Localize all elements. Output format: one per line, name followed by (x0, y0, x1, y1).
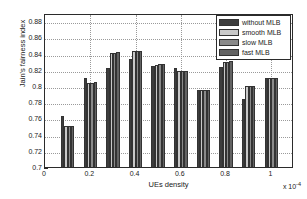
legend-swatch (219, 39, 239, 46)
x-axis-multiplier: x 10-4 (283, 181, 301, 190)
x-axis-multiplier-base: x 10 (283, 183, 296, 190)
y-tick-label: 0.86 (28, 34, 42, 42)
x-tick-label: 0.2 (77, 169, 101, 178)
legend-swatch (219, 49, 239, 56)
legend-swatch (219, 19, 239, 26)
x-tick-label: 1 (258, 169, 282, 178)
figure-canvas: Jain's fairness index 0.70.720.740.760.7… (0, 0, 307, 199)
x-tick-mark (225, 163, 226, 168)
legend-label: slow MLB (242, 39, 272, 47)
y-tick-label: 0.8 (32, 83, 42, 91)
bar (275, 78, 278, 168)
y-tick-label: 0.78 (28, 99, 42, 107)
y-tick-label: 0.82 (28, 67, 42, 75)
legend-label: smooth MLB (242, 29, 281, 37)
x-tick-label: 0.8 (213, 169, 237, 178)
x-tick-mark (89, 163, 90, 168)
legend-label: without MLB (242, 19, 281, 27)
y-tick-label: 0.88 (28, 18, 42, 26)
y-axis-label: Jain's fairness index (18, 0, 27, 119)
legend-label: fast MLB (242, 49, 270, 57)
x-tick-label: 0 (32, 169, 56, 178)
bar (139, 51, 142, 168)
x-tick-mark (135, 163, 136, 168)
bar (71, 126, 74, 168)
bar (94, 82, 97, 168)
y-tick-label: 0.74 (28, 132, 42, 140)
bar (184, 71, 187, 168)
legend-swatch (219, 29, 239, 36)
x-tick-mark (44, 163, 45, 168)
bar (252, 86, 255, 168)
x-axis-multiplier-exponent: -4 (296, 181, 301, 187)
y-tick-label: 0.76 (28, 115, 42, 123)
bar (207, 90, 210, 168)
legend-item-slow-mlb[interactable]: slow MLB (219, 38, 288, 47)
bar (116, 52, 119, 168)
x-axis-label: UEs density (44, 180, 293, 189)
x-tick-label: 0.6 (168, 169, 192, 178)
y-tick-label: 0.72 (28, 148, 42, 156)
bar (162, 64, 165, 168)
x-tick-label: 0.4 (123, 169, 147, 178)
bar (229, 61, 232, 168)
legend-item-smooth-mlb[interactable]: smooth MLB (219, 28, 288, 37)
legend: without MLBsmooth MLBslow MLBfast MLB (216, 15, 291, 60)
legend-item-fast-mlb[interactable]: fast MLB (219, 48, 288, 57)
x-tick-mark (270, 163, 271, 168)
x-tick-mark (180, 163, 181, 168)
legend-item-without-mlb[interactable]: without MLB (219, 18, 288, 27)
y-tick-label: 0.84 (28, 51, 42, 59)
